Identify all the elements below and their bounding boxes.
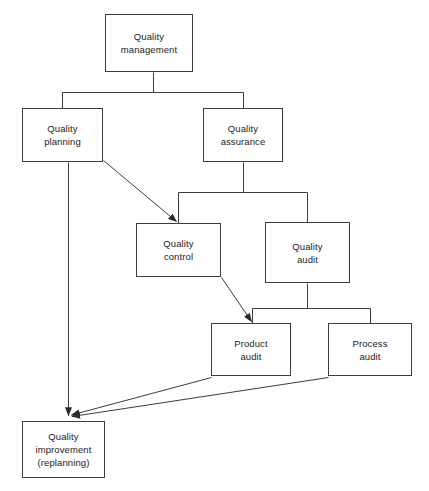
node-product-audit[interactable]: Product audit: [211, 323, 291, 376]
node-quality-control-label: Quality control: [160, 237, 196, 263]
node-process-audit-label: Process audit: [349, 337, 390, 363]
edge-control-to-product-audit: [222, 278, 252, 322]
edge-management-to-children: [63, 73, 244, 109]
node-quality-planning-label: Quality planning: [41, 122, 84, 148]
node-quality-management[interactable]: Quality management: [105, 14, 193, 72]
node-quality-audit[interactable]: Quality audit: [265, 222, 350, 283]
node-quality-planning[interactable]: Quality planning: [22, 108, 103, 162]
node-quality-assurance[interactable]: Quality assurance: [203, 108, 283, 162]
node-quality-management-label: Quality management: [118, 30, 180, 56]
edge-planning-to-control: [104, 161, 177, 222]
node-product-audit-label: Product audit: [231, 337, 270, 363]
top-caption-text: [228, 0, 428, 4]
node-quality-assurance-label: Quality assurance: [218, 122, 269, 148]
edge-assurance-to-children: [179, 163, 308, 224]
edge-process-audit-to-improvement: [72, 378, 329, 417]
node-quality-audit-label: Quality audit: [289, 240, 325, 266]
node-quality-improvement[interactable]: Quality improvement (replanning): [22, 421, 105, 478]
node-quality-improvement-label: Quality improvement (replanning): [32, 430, 94, 469]
node-process-audit[interactable]: Process audit: [328, 323, 412, 376]
edge-product-audit-to-improvement: [72, 378, 212, 416]
edge-audit-to-children: [253, 284, 371, 324]
node-quality-control[interactable]: Quality control: [136, 223, 221, 277]
quality-management-flow-diagram: Quality management Quality planning Qual…: [0, 0, 429, 491]
